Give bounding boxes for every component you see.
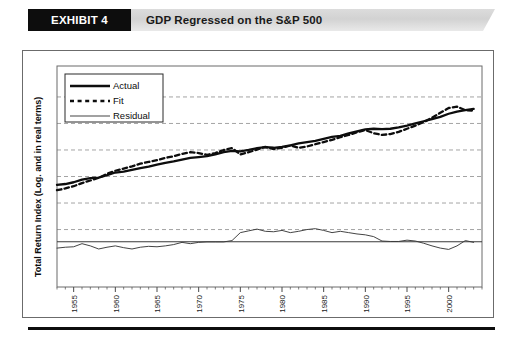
exhibit-title: GDP Regressed on the S&P 500 — [146, 9, 322, 31]
exhibit-header: EXHIBIT 4 GDP Regressed on the S&P 500 — [28, 9, 495, 31]
exhibit-number-tag: EXHIBIT 4 — [28, 9, 131, 31]
figure-frame — [22, 50, 494, 318]
bottom-divider-rule — [28, 327, 495, 330]
exhibit-number-label: EXHIBIT 4 — [51, 14, 108, 26]
